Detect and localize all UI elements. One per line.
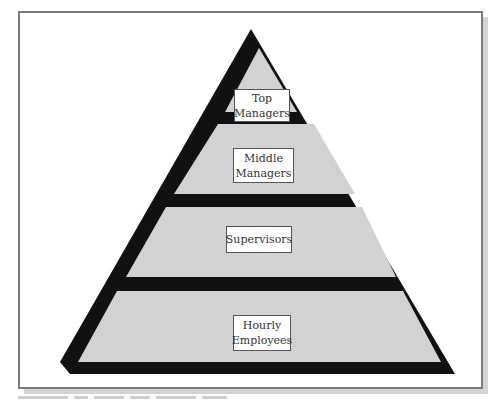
level-label-top-managers: Top Managers: [234, 89, 290, 122]
level-label-middle-managers: Middle Managers: [233, 148, 294, 183]
level-label-supervisors: Supervisors: [226, 226, 292, 253]
level-label-hourly-employees: Hourly Employees: [233, 315, 291, 351]
figure-caption-cutoff: [18, 396, 318, 402]
